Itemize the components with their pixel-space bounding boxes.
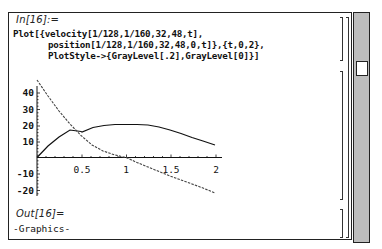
y-tick-20: 20: [23, 120, 35, 131]
x-tick-0-5: 0.5: [73, 164, 90, 175]
output-value[interactable]: -Graphics-: [13, 223, 70, 234]
output-label: Out[16]=: [16, 208, 65, 219]
x-tick-2: 2: [213, 164, 219, 175]
y-tick-minus-10: -10: [17, 168, 34, 179]
y-tick-40: 40: [23, 87, 35, 98]
input-cell-bracket[interactable]: [340, 17, 343, 61]
x-tick-1-5: 1.5: [162, 164, 179, 175]
output-cell-bracket[interactable]: [340, 209, 343, 238]
vertical-scrollbar[interactable]: [353, 12, 370, 243]
y-tick-labels: 40 30 20 10 -10 -20: [17, 87, 34, 196]
y-tick-minus-20: -20: [17, 185, 34, 196]
x-tick-1: 1: [123, 164, 129, 175]
y-tick-10: 10: [23, 136, 35, 147]
y-tick-30: 30: [23, 104, 35, 115]
scrollbar-thumb[interactable]: [356, 61, 368, 76]
graphics-cell-bracket[interactable]: [340, 71, 343, 200]
plot-axes: [37, 86, 222, 196]
x-tick-labels: 0.5 1 1.5 2: [73, 164, 218, 175]
position-curve: [37, 125, 215, 158]
group-cell-bracket[interactable]: [346, 17, 349, 238]
